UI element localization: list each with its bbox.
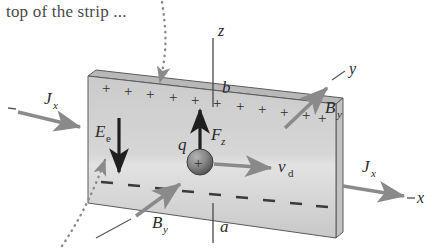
current-density-left-label: J x	[44, 89, 58, 111]
positive-charge: +	[280, 104, 288, 120]
y-axis-label: y	[347, 60, 357, 78]
positive-charge: +	[102, 80, 110, 96]
dotted-leader-upper	[160, 2, 166, 82]
charge-sphere-sign: +	[194, 155, 202, 171]
negative-charge	[128, 185, 140, 186]
negative-charge	[316, 206, 328, 207]
positive-charge: +	[146, 86, 154, 102]
electric-field-symbol: E	[94, 122, 106, 141]
dimension-a-label: a	[220, 217, 229, 236]
positive-charge: +	[258, 101, 266, 117]
magnetic-field-bottom-subscript: y	[162, 223, 168, 235]
figure-page: top of the strip ...	[0, 0, 434, 249]
force-subscript: z	[220, 135, 226, 147]
negative-charge	[290, 203, 302, 204]
hall-effect-diagram: + + + + + + + + + + + z b	[0, 0, 434, 249]
magnetic-field-top-symbol: B	[325, 98, 336, 117]
current-density-right-subscript: x	[370, 167, 376, 179]
negative-charge	[209, 194, 221, 195]
positive-charge: +	[213, 95, 221, 111]
z-axis-label: z	[217, 22, 225, 39]
y-axis-leader	[332, 71, 345, 80]
magnetic-field-bottom-leader	[96, 219, 131, 238]
drift-velocity-subscript: d	[288, 167, 294, 179]
current-density-left-symbol: J	[44, 89, 53, 108]
negative-charge	[263, 200, 275, 201]
current-density-left-arrow	[18, 112, 80, 127]
positive-charge: +	[236, 98, 244, 114]
charge-label: q	[178, 135, 187, 154]
negative-charge	[155, 188, 167, 189]
current-density-right-symbol: J	[362, 157, 371, 176]
negative-charge	[101, 182, 113, 183]
dimension-b-label: b	[222, 78, 231, 97]
negative-charge	[236, 197, 248, 198]
positive-charge: +	[169, 89, 177, 105]
magnetic-field-bottom-label: B y	[152, 213, 168, 235]
x-axis-label: x	[416, 189, 424, 206]
current-density-left-subscript: x	[52, 99, 58, 111]
x-axis-arrow	[343, 186, 404, 196]
drift-velocity-symbol: v	[278, 157, 286, 176]
positive-charge: +	[191, 92, 199, 108]
magnetic-field-top-subscript: y	[336, 108, 342, 120]
electric-field-subscript: e	[106, 132, 111, 144]
negative-charge	[182, 191, 194, 192]
positive-charge: +	[124, 83, 132, 99]
current-density-left-dash	[8, 108, 16, 109]
current-density-right-label: J x	[362, 157, 376, 179]
magnetic-field-bottom-symbol: B	[152, 213, 163, 232]
charge-carrier-sphere: +	[187, 149, 213, 175]
